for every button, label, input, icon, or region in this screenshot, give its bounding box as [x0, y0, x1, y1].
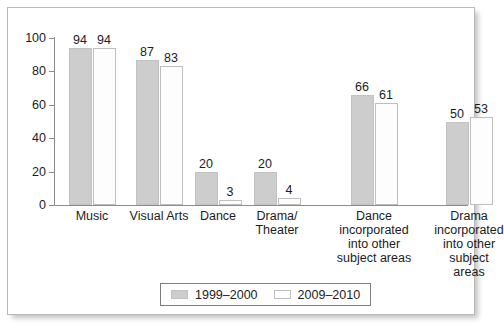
chart-legend: 1999–20002009–2010: [160, 283, 371, 306]
y-axis-tick-label: 100: [25, 31, 46, 45]
legend-label: 2009–2010: [298, 288, 361, 302]
chart-card: 0204060801009494878320320466615053 1999–…: [7, 7, 475, 315]
bar-value-label: 66: [355, 80, 369, 94]
y-axis-tick: [49, 172, 54, 173]
x-axis-category-label: Dance: [200, 209, 236, 223]
bar-0-4: 66: [351, 95, 374, 205]
x-axis-category-label: Dance incorporated into other subject ar…: [337, 209, 411, 265]
bar-1-3: 4: [278, 198, 301, 205]
bar-value-label: 61: [379, 88, 393, 102]
bar-1-0: 94: [93, 48, 116, 205]
bar-value-label: 20: [258, 157, 272, 171]
bar-0-1: 87: [136, 60, 159, 205]
y-axis-tick-label: 0: [39, 198, 46, 212]
bar-1-5: 53: [470, 117, 493, 206]
plot-area: 0204060801009494878320320466615053: [54, 38, 468, 205]
bar-value-label: 50: [450, 107, 464, 121]
legend-item-1: 2009–2010: [274, 288, 361, 302]
x-axis-category-label: Visual Arts: [130, 209, 189, 223]
legend-swatch-icon: [274, 290, 291, 299]
y-axis-tick-label: 20: [32, 165, 46, 179]
x-axis-line: [54, 205, 468, 206]
bar-value-label: 87: [140, 45, 154, 59]
x-axis-category-label: Drama incorporated into other subject ar…: [434, 209, 504, 279]
y-axis-tick: [49, 71, 54, 72]
y-axis-tick-label: 60: [32, 98, 46, 112]
y-axis-tick: [49, 138, 54, 139]
y-axis-tick: [49, 205, 54, 206]
y-axis-tick: [49, 38, 54, 39]
y-axis-tick: [49, 105, 54, 106]
x-axis-category-label: Music: [76, 209, 109, 223]
y-axis-tick-label: 40: [32, 131, 46, 145]
bar-value-label: 83: [164, 51, 178, 65]
bar-value-label: 3: [227, 185, 234, 199]
bar-value-label: 20: [199, 157, 213, 171]
bar-value-label: 53: [474, 102, 488, 116]
legend-item-0: 1999–2000: [171, 288, 258, 302]
bar-value-label: 4: [286, 183, 293, 197]
legend-swatch-icon: [171, 290, 188, 299]
bar-1-4: 61: [375, 103, 398, 205]
bar-value-label: 94: [97, 33, 111, 47]
bar-value-label: 94: [73, 33, 87, 47]
bar-1-2: 3: [219, 200, 242, 205]
bar-1-1: 83: [160, 66, 183, 205]
x-axis-category-label: Drama/ Theater: [255, 209, 298, 237]
bar-0-3: 20: [254, 172, 277, 205]
y-axis-tick-label: 80: [32, 64, 46, 78]
bar-0-2: 20: [195, 172, 218, 205]
bar-0-0: 94: [69, 48, 92, 205]
legend-label: 1999–2000: [195, 288, 258, 302]
bar-0-5: 50: [446, 122, 469, 206]
